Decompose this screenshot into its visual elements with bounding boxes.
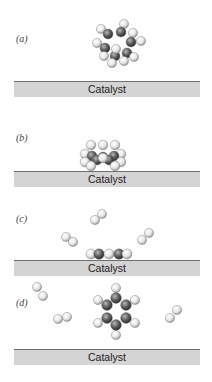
planar-ring-and-hydrogen-icon [0, 0, 212, 360]
catalyst-surface-d: Catalyst [14, 349, 200, 365]
catalyst-label-d: Catalyst [14, 350, 200, 365]
